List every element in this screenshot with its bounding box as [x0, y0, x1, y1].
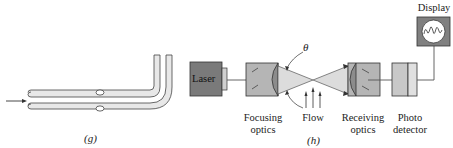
caption-g: (g) — [84, 132, 97, 144]
theta-leader-top — [287, 52, 303, 68]
laser-label: Laser — [192, 73, 215, 85]
focusing-optics-label: Focusing optics — [243, 112, 283, 136]
static-port-lower — [96, 106, 104, 111]
display-label: Display — [414, 2, 453, 14]
photo-detector-unit — [392, 63, 417, 96]
receiving-optics-unit — [348, 63, 380, 96]
theta-leader-bottom — [287, 93, 303, 108]
theta-symbol: θ — [303, 41, 308, 53]
beam-cone-in — [278, 66, 313, 94]
flow-arrows — [305, 87, 322, 108]
photo-detector-label: Photo detector — [389, 112, 431, 136]
caption-h: (h) — [307, 134, 320, 146]
receiving-optics-label: Receiving optics — [339, 112, 387, 136]
static-port-upper — [96, 90, 104, 95]
flow-label: Flow — [300, 112, 326, 124]
display-unit — [417, 17, 450, 46]
signal-wire — [417, 46, 434, 80]
pitot-tube — [6, 55, 172, 111]
beam-cone-out — [313, 66, 348, 94]
focusing-optics-unit — [246, 63, 278, 96]
